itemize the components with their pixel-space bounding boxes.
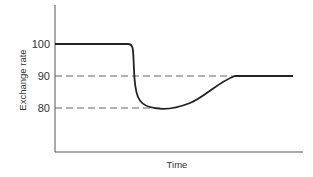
exchange-rate-chart: 100 90 80 Exchange rate Time — [0, 0, 313, 177]
y-tick-100: 100 — [32, 38, 50, 50]
y-axis-label: Exchange rate — [17, 49, 28, 110]
x-axis-label: Time — [167, 159, 188, 170]
y-tick-90: 90 — [38, 70, 50, 82]
y-tick-80: 80 — [38, 102, 50, 114]
